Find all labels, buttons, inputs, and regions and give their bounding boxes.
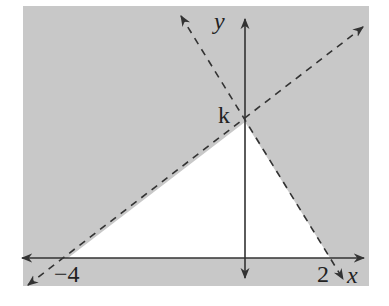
x-axis-label: x [346,262,358,288]
y-axis-label: y [212,8,225,34]
x-intercept-right-label: 2 [317,261,329,287]
diagram-canvas: y x k −4 2 [0,0,389,306]
y-intercept-label: k [218,102,230,128]
x-intercept-left-label: −4 [54,261,80,287]
